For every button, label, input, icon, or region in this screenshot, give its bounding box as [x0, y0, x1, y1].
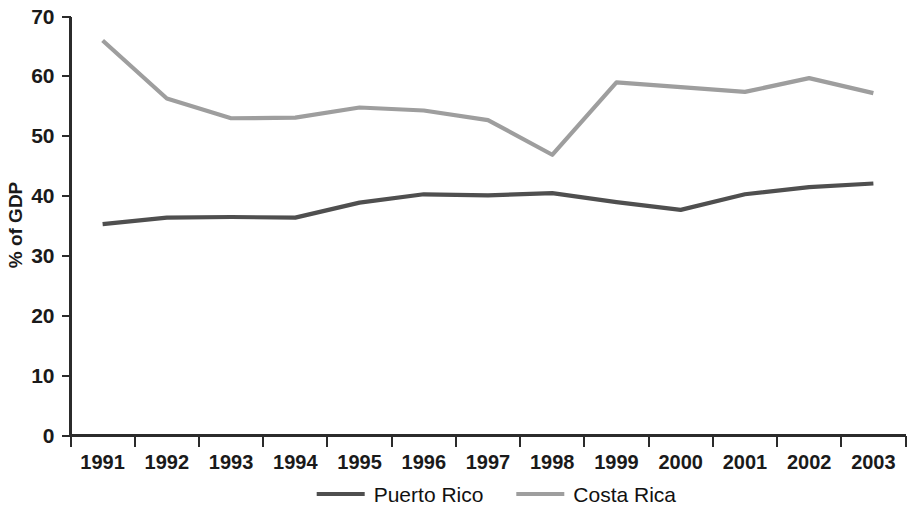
x-tick-label: 2001 [723, 451, 768, 473]
y-axis-title: % of GDP [5, 181, 26, 268]
y-tick-label: 0 [43, 424, 55, 447]
y-tick-label: 40 [31, 184, 54, 207]
x-tick-label: 1997 [466, 451, 511, 473]
x-tick-label: 1992 [145, 451, 190, 473]
x-tick-label: 2002 [787, 451, 832, 473]
y-tick-label: 20 [31, 304, 54, 327]
x-tick-label: 2003 [851, 451, 896, 473]
chart-background [0, 0, 917, 510]
x-tick-label: 1993 [209, 451, 254, 473]
x-tick-label: 1995 [337, 451, 382, 473]
y-tick-label: 50 [31, 124, 54, 147]
y-tick-label: 70 [31, 5, 54, 28]
legend-label-costa-rica: Costa Rica [573, 483, 676, 506]
legend-label-puerto-rico: Puerto Rico [374, 483, 484, 506]
y-tick-label: 10 [31, 364, 54, 387]
x-tick-label: 1998 [530, 451, 575, 473]
y-tick-label: 30 [31, 244, 54, 267]
chart-container: % of GDP 010203040506070 199119921993199… [0, 0, 917, 510]
x-tick-label: 2000 [658, 451, 703, 473]
x-tick-label: 1991 [80, 451, 125, 473]
y-tick-label: 60 [31, 64, 54, 87]
x-tick-label: 1999 [594, 451, 639, 473]
x-tick-label: 1996 [402, 451, 447, 473]
y-axis-title-label: % of GDP [5, 181, 26, 268]
line-chart-figure: % of GDP 010203040506070 199119921993199… [0, 0, 917, 510]
x-tick-label: 1994 [273, 451, 318, 473]
